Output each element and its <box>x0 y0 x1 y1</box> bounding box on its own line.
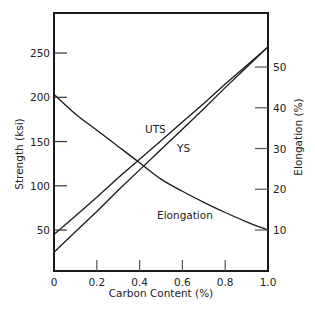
ys-line <box>54 47 268 252</box>
y-tick-label: 100 <box>30 180 50 192</box>
plot-frame <box>54 13 268 271</box>
y-axis-title: Strength (ksi) <box>13 118 25 189</box>
x-tick-label: 0.8 <box>217 276 234 288</box>
y-tick-label: 250 <box>30 47 50 59</box>
y2-tick-label: 30 <box>273 143 286 155</box>
strength-elongation-chart: 00.20.40.60.81.0501001502002501020304050… <box>0 0 315 313</box>
y-tick-label: 50 <box>37 224 50 236</box>
ys-label: YS <box>176 142 190 154</box>
plot-area <box>54 47 268 252</box>
y2-tick-label: 50 <box>273 61 286 73</box>
y2-axis-title: Elongation (%) <box>292 98 304 175</box>
uts-label: UTS <box>145 123 166 135</box>
y2-tick-label: 40 <box>273 102 286 114</box>
chart-container: 00.20.40.60.81.0501001502002501020304050… <box>0 0 315 313</box>
y-tick-label: 200 <box>30 91 50 103</box>
x-axis-title: Carbon Content (%) <box>109 287 213 299</box>
y2-tick-label: 20 <box>273 183 286 195</box>
axes <box>54 13 268 271</box>
labels: 00.20.40.60.81.0501001502002501020304050… <box>13 47 304 299</box>
y2-tick-label: 10 <box>273 224 286 236</box>
x-tick-label: 0 <box>51 276 58 288</box>
x-tick-label: 1.0 <box>260 276 277 288</box>
x-tick-label: 0.2 <box>88 276 105 288</box>
uts-line <box>54 47 268 235</box>
y-tick-label: 150 <box>30 136 50 148</box>
elongation-label: Elongation <box>157 209 213 221</box>
